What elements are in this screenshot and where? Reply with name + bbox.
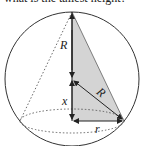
label-x: x	[61, 94, 68, 108]
label-r: r	[95, 122, 100, 136]
label-R-vertical: R	[59, 38, 68, 52]
sphere-cone-diagram: R R x r	[0, 0, 142, 146]
